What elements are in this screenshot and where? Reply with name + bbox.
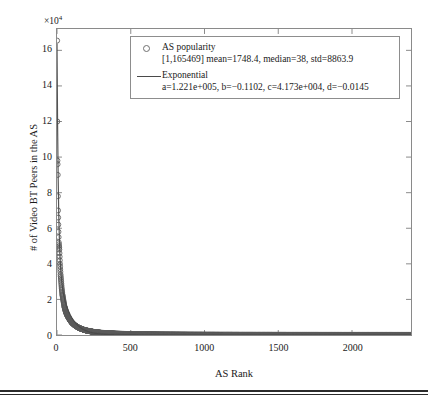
x-axis-tick-label: 500 <box>100 342 160 353</box>
legend-item-text-group: AS popularity [1,165469] mean=1748.4, me… <box>162 42 393 65</box>
x-axis-title: AS Rank <box>56 368 412 379</box>
caption-rule-thick <box>0 390 428 392</box>
x-axis-tick-label: 2000 <box>323 342 383 353</box>
legend-item-as-popularity: AS popularity [1,165469] mean=1748.4, me… <box>136 42 393 65</box>
legend-item-exponential: Exponential a=1.221e+005, b=−0.1102, c=4… <box>136 70 393 93</box>
legend-item-detail: [1,165469] mean=1748.4, median=38, std=8… <box>162 53 393 65</box>
chart-legend: AS popularity [1,165469] mean=1748.4, me… <box>130 36 400 99</box>
caption-rule-thin <box>0 394 428 395</box>
legend-key-line <box>136 70 162 82</box>
legend-key-marker <box>136 42 162 54</box>
x-axis-tick-label: 1500 <box>249 342 309 353</box>
legend-item-label: Exponential <box>162 70 393 81</box>
legend-item-label: AS popularity <box>162 42 393 53</box>
legend-item-text-group: Exponential a=1.221e+005, b=−0.1102, c=4… <box>162 70 393 93</box>
x-axis-tick-label: 0 <box>26 342 86 353</box>
legend-item-detail: a=1.221e+005, b=−0.1102, c=4.173e+004, d… <box>162 81 393 93</box>
x-axis-tick-label: 1000 <box>174 342 234 353</box>
figure-container: ×104 0246810121416 0500100015002000 # of… <box>0 0 428 402</box>
open-circle-marker-icon <box>143 45 150 52</box>
y-axis-title: # of Video BT Peers in the AS <box>28 68 39 308</box>
solid-line-marker-icon <box>137 76 161 77</box>
